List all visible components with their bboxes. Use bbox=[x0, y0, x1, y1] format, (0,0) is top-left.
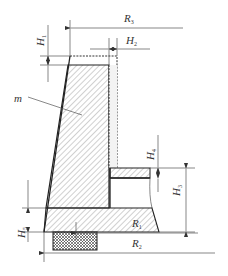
svg-text:H5: H5 bbox=[15, 227, 28, 239]
svg-text:H2: H2 bbox=[125, 34, 137, 47]
bottom-slab bbox=[44, 208, 159, 232]
dimension-h3: H3 bbox=[159, 169, 195, 232]
svg-text:H3: H3 bbox=[170, 185, 183, 197]
dimension-h5: H5 bbox=[15, 180, 46, 242]
svg-text:H4: H4 bbox=[144, 149, 157, 161]
svg-text:R2: R2 bbox=[131, 237, 142, 250]
dimension-h2: H2 bbox=[90, 34, 150, 56]
cross-section-diagram: m R3 H2 H1 H4 H3 H5 bbox=[0, 0, 228, 276]
cross-hatched-block bbox=[53, 232, 97, 250]
svg-text:R3: R3 bbox=[123, 12, 134, 25]
svg-text:H1: H1 bbox=[34, 35, 47, 47]
dimension-h4: H4 bbox=[144, 135, 195, 192]
step-region bbox=[110, 168, 152, 208]
svg-text:m: m bbox=[14, 92, 22, 104]
dimension-h1: H1 bbox=[34, 25, 70, 82]
main-body bbox=[44, 56, 117, 232]
